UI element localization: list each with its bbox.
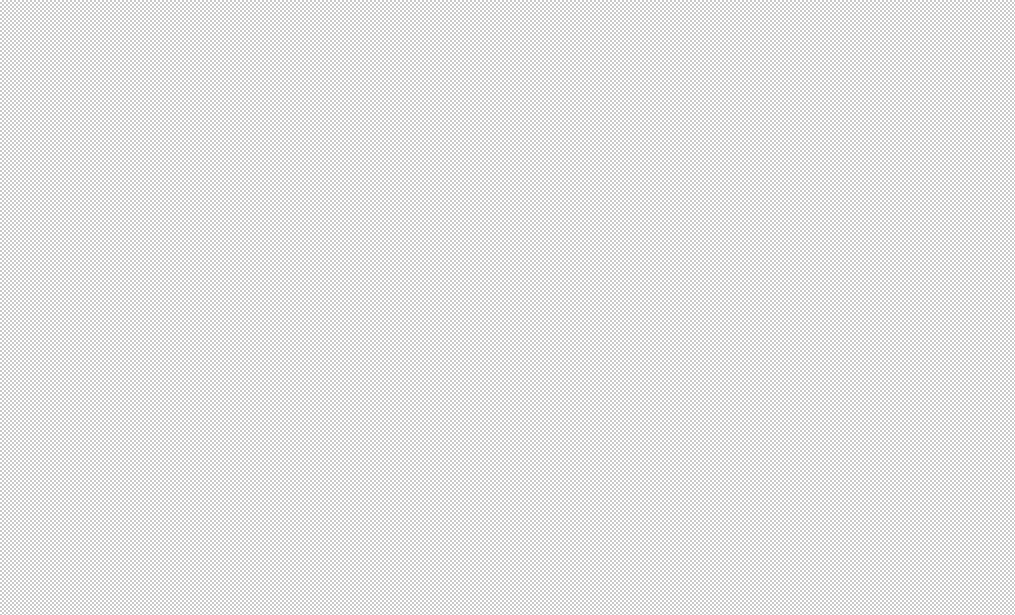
data-point-triangle: [543, 403, 559, 416]
data-point-circle: [324, 444, 336, 456]
x-tick-label: 2000: [869, 552, 911, 573]
x-tick-label: 400: [314, 552, 346, 573]
x-tick-label: 1800: [799, 552, 841, 573]
y-tick-label: 0: [167, 531, 178, 552]
data-point-circle: [436, 278, 448, 290]
data-point-circle: [233, 525, 245, 537]
y-tick-label: 500: [146, 42, 178, 63]
data-point-circle: [487, 438, 499, 450]
x-tick-label: 800: [454, 552, 486, 573]
data-point-circle: [520, 268, 532, 280]
data-point-circle: [411, 388, 423, 400]
data-point-circle: [222, 501, 234, 513]
data-point-circle: [334, 381, 346, 393]
x-tick-label: 1600: [729, 552, 771, 573]
data-point-triangle: [406, 380, 422, 393]
chart-svg: 0501001502002503003504004505000200400600…: [0, 0, 1015, 615]
data-point-circle: [198, 527, 210, 539]
data-point-circle: [315, 500, 327, 512]
data-point-circle: [480, 379, 492, 391]
y-tick-label: 150: [146, 384, 178, 405]
circle-data-points: [198, 196, 879, 539]
data-point-circle: [315, 517, 327, 529]
data-point-circle: [866, 210, 878, 222]
data-point-triangle: [382, 344, 398, 357]
data-point-circle: [299, 449, 311, 461]
data-point-triangle: [809, 102, 825, 115]
data-point-circle: [210, 513, 222, 525]
data-point-triangle: [436, 352, 452, 365]
data-point-circle: [292, 457, 304, 469]
data-point-circle: [548, 280, 560, 292]
data-point-circle: [273, 511, 285, 523]
data-point-circle: [226, 525, 238, 537]
data-point-circle: [439, 367, 451, 379]
data-point-circle: [632, 222, 644, 234]
data-point-circle: [266, 452, 278, 464]
x-tick-label: 200: [244, 552, 276, 573]
data-point-circle: [434, 266, 446, 278]
data-point-circle: [632, 196, 644, 208]
data-point-triangle: [532, 353, 548, 366]
data-point-circle: [198, 511, 210, 523]
data-point-circle: [537, 313, 549, 325]
x-tick-label: 600: [384, 552, 416, 573]
data-point-circle: [329, 464, 341, 476]
data-point-circle: [485, 249, 497, 261]
scatter-plot: 0501001502002503003504004505000200400600…: [0, 0, 1015, 615]
x-tick-label: 0: [185, 552, 196, 573]
y-tick-label: 350: [146, 189, 178, 210]
y-tick-label: 200: [146, 335, 178, 356]
x-tick-label: 1000: [519, 552, 561, 573]
y-axis-title: MAINTENANCE WORKERS: [97, 166, 122, 454]
data-point-triangle: [376, 276, 392, 289]
data-point-circle: [380, 427, 392, 439]
x-tick-label: 1400: [659, 552, 701, 573]
y-tick-label: 400: [146, 140, 178, 161]
data-point-circle: [355, 511, 367, 523]
data-point-circle: [509, 232, 521, 244]
x-tick-label: 1200: [589, 552, 631, 573]
y-tick-label: 50: [157, 482, 178, 503]
data-point-circle: [341, 433, 353, 445]
data-point-circle: [471, 386, 483, 398]
y-tick-label: 450: [146, 91, 178, 112]
data-point-triangle: [319, 406, 335, 419]
figure-page: 0501001502002503003504004505000200400600…: [0, 0, 1015, 615]
x-axis-title: TONS / DAY: [477, 572, 604, 597]
data-point-triangle: [576, 353, 592, 366]
data-point-circle: [466, 367, 478, 379]
data-point-circle: [345, 473, 357, 485]
y-tick-label: 100: [146, 433, 178, 454]
triangle-data-points: [319, 102, 825, 431]
data-point-circle: [429, 424, 441, 436]
y-tick-label: 300: [146, 238, 178, 259]
data-point-circle: [382, 465, 394, 477]
survey-annotation: 1986 Survey: [330, 58, 442, 80]
y-tick-label: 250: [146, 287, 178, 308]
